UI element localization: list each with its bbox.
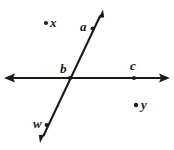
point-label-a: a [80, 20, 87, 33]
point-dot-c [132, 76, 136, 80]
geometry-diagram-svg [0, 0, 174, 150]
point-label-x: x [50, 16, 57, 29]
point-label-w: w [33, 117, 42, 130]
point-dot-x [44, 21, 48, 25]
point-label-y: y [141, 98, 147, 111]
geometry-figure: x a b c y w [0, 0, 174, 150]
horizontal-line [4, 74, 170, 83]
point-label-b: b [60, 62, 67, 75]
slanted-line-segment [43, 16, 100, 136]
slanted-line-lower-arrowhead [39, 132, 46, 143]
point-dot-b [68, 76, 72, 80]
point-dot-y [134, 103, 138, 107]
point-dot-w [45, 123, 49, 127]
point-dot-a [91, 27, 95, 31]
point-label-c: c [130, 59, 136, 72]
slanted-line-upper-arrowhead [97, 10, 104, 21]
slanted-line [39, 10, 104, 144]
